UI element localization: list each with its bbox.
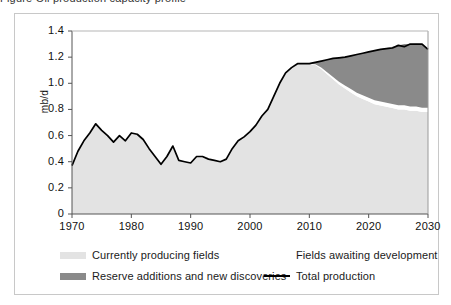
y-tick-label: 0.6	[34, 129, 64, 141]
legend-swatch-icon	[264, 275, 290, 277]
y-tick-label: 0.4	[34, 155, 64, 167]
chart-legend: Currently producing fieldsFields awaitin…	[14, 245, 439, 291]
y-tick-label: 0.8	[34, 102, 64, 114]
legend-swatch-icon	[264, 252, 290, 259]
legend-swatch-icon	[60, 252, 86, 259]
chart-plot-area: mb/d 00.20.40.60.81.01.21.4 197019801990…	[0, 0, 451, 240]
y-tick-label: 0.2	[34, 181, 64, 193]
y-tick-label: 0	[34, 207, 64, 219]
x-tick-label: 2030	[408, 220, 448, 232]
x-tick-label: 1970	[52, 220, 92, 232]
legend-label: Reserve additions and new discoveries	[92, 270, 286, 282]
legend-item[interactable]: Reserve additions and new discoveries	[60, 268, 286, 284]
legend-label: Fields awaiting development	[296, 249, 438, 261]
x-tick-label: 2010	[289, 220, 329, 232]
y-tick-label: 1.4	[34, 24, 64, 36]
legend-item[interactable]: Currently producing fields	[60, 247, 219, 263]
y-tick-label: 1.0	[34, 76, 64, 88]
x-tick-label: 2020	[349, 220, 389, 232]
legend-swatch-icon	[60, 273, 86, 280]
chart-svg	[0, 0, 451, 240]
x-tick-label: 2000	[230, 220, 270, 232]
legend-item[interactable]: Total production	[264, 268, 375, 284]
x-tick-label: 1980	[111, 220, 151, 232]
legend-item[interactable]: Fields awaiting development	[264, 247, 438, 263]
x-tick-label: 1990	[171, 220, 211, 232]
legend-label: Currently producing fields	[92, 249, 219, 261]
legend-label: Total production	[296, 270, 375, 282]
y-tick-label: 1.2	[34, 50, 64, 62]
